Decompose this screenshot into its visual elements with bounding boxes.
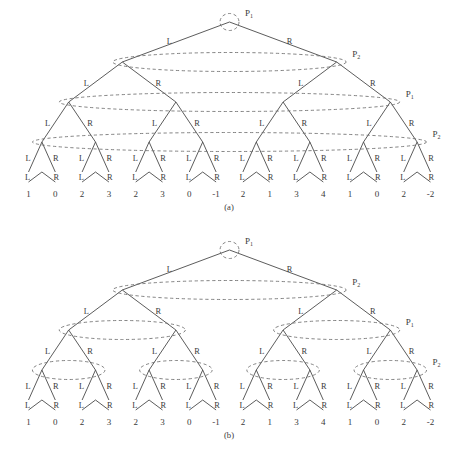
edge-label-b-l2-right: R — [409, 347, 415, 356]
leaf-edge-a-0 — [29, 172, 42, 182]
edge-label-b-l1-right: R — [370, 307, 376, 316]
leaf-edge-label-a-4: L — [132, 173, 137, 182]
edge-label-a-l1-right: R — [155, 79, 161, 88]
processor-label-sub: 2 — [438, 362, 441, 368]
processor-label-b-l0: P1 — [245, 236, 253, 247]
edge-label-a-l2-right: R — [302, 119, 308, 128]
edge-label-b-l3-left: L — [240, 382, 245, 391]
leaf-edge-label-a-14: L — [400, 173, 405, 182]
edge-label-b-l0-right: R — [287, 265, 293, 274]
edge-label-b-l3-left: L — [79, 382, 84, 391]
group-ellipse-b-l3-2 — [140, 361, 213, 380]
leaf-value-a-2: 2 — [80, 189, 85, 199]
leaf-edge-label-b-1: R — [53, 401, 59, 410]
processor-label-sub: 2 — [357, 54, 360, 60]
edge-label-b-l3-left: L — [293, 382, 298, 391]
edge-label-b-l3-left: L — [186, 382, 191, 391]
processor-label-b-l3: P2 — [433, 357, 441, 368]
edge-label-a-l3-right: R — [53, 154, 59, 163]
tree-edge-a-l1-1 — [122, 62, 176, 102]
leaf-value-a-13: 0 — [375, 189, 380, 199]
edge-label-a-l3-right: R — [321, 154, 327, 163]
leaf-value-a-11: 4 — [321, 189, 326, 199]
processor-label-b-l1: P2 — [352, 277, 360, 288]
leaf-edge-b-12 — [350, 400, 363, 410]
leaf-edge-label-a-0: L — [25, 173, 30, 182]
tree-diagram-svg: LRLRLRLRLRLRLRLRLRLRLRLRLRLRLRLRLRLRLRLR… — [0, 0, 458, 460]
leaf-edge-b-8 — [243, 400, 256, 410]
group-ellipse-b-l3-0 — [32, 361, 105, 380]
leaf-value-b-5: 3 — [160, 417, 165, 427]
leaf-edge-a-2 — [82, 172, 95, 182]
leaf-value-b-15: -2 — [427, 417, 435, 427]
leaf-value-a-9: 1 — [267, 189, 272, 199]
leaf-edge-label-b-2: L — [79, 401, 84, 410]
leaf-edge-b-2 — [82, 400, 95, 410]
tree-panel-b: LRLRLRLRLRLRLRLRLRLRLRLRLRLRLRLRLRLRLRLR… — [25, 236, 441, 440]
leaf-edge-label-b-6: L — [186, 401, 191, 410]
leaf-value-a-10: 3 — [294, 189, 299, 199]
panel-caption-b: (b) — [224, 430, 234, 440]
leaf-value-a-7: -1 — [212, 189, 220, 199]
edge-label-b-l3-left: L — [133, 382, 138, 391]
leaf-value-b-2: 2 — [80, 417, 85, 427]
edge-label-a-l3-right: R — [428, 154, 434, 163]
leaf-value-b-10: 3 — [294, 417, 299, 427]
edge-label-b-l2-right: R — [194, 347, 200, 356]
leaf-value-b-1: 0 — [53, 417, 58, 427]
leaf-value-a-8: 2 — [241, 189, 246, 199]
leaf-value-b-7: -1 — [212, 417, 220, 427]
edge-label-a-l0-left: L — [167, 37, 172, 46]
leaf-edge-label-a-15: R — [429, 173, 435, 182]
edge-label-a-l2-left: L — [259, 119, 264, 128]
leaf-value-a-6: 0 — [187, 189, 192, 199]
leaf-edge-a-4 — [136, 172, 149, 182]
tree-edge-b-l1-3 — [337, 290, 391, 330]
edge-label-a-l2-right: R — [194, 119, 200, 128]
edge-label-a-l3-left: L — [293, 154, 298, 163]
leaf-edge-label-b-0: L — [25, 401, 30, 410]
edge-label-b-l3-left: L — [347, 382, 352, 391]
leaf-edge-label-a-8: L — [239, 173, 244, 182]
leaf-edge-label-b-7: R — [214, 401, 220, 410]
leaf-value-b-0: 1 — [26, 417, 31, 427]
edge-label-b-l3-right: R — [160, 382, 166, 391]
edge-label-b-l3-right: R — [107, 382, 113, 391]
tree-edge-a-l1-2 — [283, 62, 337, 102]
tree-edge-b-l0-1 — [230, 250, 337, 290]
leaf-value-a-14: 2 — [401, 189, 406, 199]
leaf-edge-b-6 — [189, 400, 202, 410]
tree-edge-a-l1-3 — [337, 62, 391, 102]
leaf-edge-label-a-9: R — [268, 173, 274, 182]
edge-label-a-l3-left: L — [347, 154, 352, 163]
leaf-edge-label-a-6: L — [186, 173, 191, 182]
edge-label-b-l2-right: R — [302, 347, 308, 356]
leaf-edge-label-a-1: R — [53, 173, 59, 182]
panel-caption-a: (a) — [224, 202, 234, 212]
edge-label-b-l1-right: R — [155, 307, 161, 316]
edge-label-a-l3-right: R — [214, 154, 220, 163]
group-ellipse-b-l3-6 — [354, 361, 427, 380]
edge-label-b-l3-right: R — [321, 382, 327, 391]
processor-label-b-l2: P1 — [406, 317, 414, 328]
tree-panel-a: LRLRLRLRLRLRLRLRLRLRLRLRLRLRLRLRLRLRLRLR… — [25, 8, 441, 212]
leaf-edge-label-b-9: R — [268, 401, 274, 410]
leaf-edge-b-0 — [29, 400, 42, 410]
edge-label-a-l1-left: L — [84, 79, 89, 88]
leaf-edge-label-a-3: R — [107, 173, 113, 182]
edge-label-b-l3-left: L — [401, 382, 406, 391]
leaf-value-b-3: 3 — [107, 417, 112, 427]
leaf-value-b-14: 2 — [401, 417, 406, 427]
leaf-value-b-6: 0 — [187, 417, 192, 427]
edge-label-a-l3-left: L — [186, 154, 191, 163]
leaf-edge-label-b-14: L — [400, 401, 405, 410]
leaf-edge-label-b-3: R — [107, 401, 113, 410]
leaf-edge-label-b-13: R — [375, 401, 381, 410]
edge-label-b-l2-left: L — [152, 347, 157, 356]
leaf-edge-label-a-7: R — [214, 173, 220, 182]
edge-label-b-l2-left: L — [366, 347, 371, 356]
edge-label-a-l2-left: L — [366, 119, 371, 128]
leaf-value-a-1: 0 — [53, 189, 58, 199]
processor-label-sub: 1 — [250, 241, 253, 247]
edge-label-b-l0-left: L — [167, 265, 172, 274]
